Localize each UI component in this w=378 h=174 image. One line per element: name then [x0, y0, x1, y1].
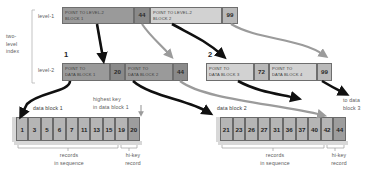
connector-overlay	[0, 0, 378, 174]
arrow-l2b1key-to-datablock2-hikey	[180, 81, 322, 115]
data-block-2-record-6[interactable]: 37	[296, 117, 309, 141]
data-block-1-records-label: records in sequence	[39, 152, 99, 167]
to-data-block-3-annotation: to data block 3	[343, 97, 361, 112]
arrow-l1e0-to-l2b1	[97, 24, 103, 58]
data-block-1-record-8[interactable]: 19	[115, 117, 127, 141]
data-block-1-record-5[interactable]: 11	[78, 117, 90, 141]
level1-entry-0-pointer[interactable]: POINT TO LEVEL-2 BLOCK 1	[62, 7, 134, 24]
data-block-2-record-7[interactable]: 40	[308, 117, 321, 141]
data-block-2-record-5[interactable]: 36	[283, 117, 296, 141]
data-block-1-record-2[interactable]: 5	[41, 117, 53, 141]
data-block-1-record-3[interactable]: 6	[53, 117, 65, 141]
data-block-2-hikey-cell[interactable]: 44	[333, 117, 346, 141]
arrow-l1e0key-to-l2b1e1	[142, 24, 170, 55]
data-block-2-caption: data block 2	[217, 105, 247, 113]
level-2-label: level-2	[38, 67, 54, 75]
data-block-2-record-8[interactable]: 42	[321, 117, 334, 141]
level2-block2-entry-0-key[interactable]: 72	[254, 63, 269, 81]
data-block-1-shadow	[14, 141, 142, 145]
arrow-l1e1-to-l2b2	[172, 24, 222, 55]
two-level-index-label: two- level index	[6, 33, 32, 56]
data-block-1-hikey-cell[interactable]: 20	[128, 117, 140, 141]
data-block-2-hikey-label: hi-key record	[324, 152, 354, 167]
level2-block-1-number: 1	[64, 50, 68, 61]
data-block-1-hikey-label: hi-key record	[118, 152, 148, 167]
level2-block1-entry-0-pointer[interactable]: POINT TO DATA BLOCK 1	[62, 63, 110, 81]
data-block-2-record-4[interactable]: 31	[270, 117, 283, 141]
bracket-db2-hikey	[327, 145, 344, 151]
level1-entry-0-key[interactable]: 44	[134, 7, 150, 24]
data-block-1-caption: data block 1	[33, 105, 63, 113]
data-block-2-record-1[interactable]: 23	[233, 117, 246, 141]
highest-key-annotation: highest key in data block 1	[93, 96, 129, 111]
diagram-canvas: two- level index level-1 level-2 POINT T…	[0, 0, 378, 174]
arrow-l2b1e1-to-datablock2	[133, 81, 208, 112]
bracket-db1-records	[18, 145, 118, 151]
arrow-l2b2e0-to-datablock3	[238, 81, 296, 98]
data-block-2-shadow	[218, 141, 348, 145]
level1-entry-1-pointer[interactable]: POINT TO LEVEL-2 BLOCK 2	[150, 7, 222, 24]
level-1-label: level-1	[38, 13, 54, 21]
level2-block1-entry-0-key[interactable]: 20	[110, 63, 125, 81]
arrow-l2b2e1-to-datablock4	[322, 81, 344, 93]
level2-block2-entry-1-key[interactable]: 99	[317, 63, 332, 81]
level2-block1-entry-1-pointer[interactable]: POINT TO DATA BLOCK 2	[125, 63, 173, 81]
level2-block2-entry-1-pointer[interactable]: POINT TO DATA BLOCK 4	[269, 63, 317, 81]
arrow-l1e1key-to-l2b2e1	[231, 24, 324, 55]
index-bracket	[32, 10, 35, 83]
level2-block2-entry-0-pointer[interactable]: POINT TO DATA BLOCK 3	[206, 63, 254, 81]
data-block-1-record-4[interactable]: 7	[66, 117, 78, 141]
data-block-2-record-3[interactable]: 27	[258, 117, 271, 141]
data-block-1-record-0[interactable]: 1	[16, 117, 28, 141]
level1-entry-1-key[interactable]: 99	[222, 7, 238, 24]
bracket-db1-hikey	[121, 145, 137, 151]
level2-block1-entry-1-key[interactable]: 44	[173, 63, 188, 81]
data-block-1-record-1[interactable]: 3	[28, 117, 40, 141]
bracket-db2-records	[222, 145, 324, 151]
data-block-1-record-6[interactable]: 13	[90, 117, 102, 141]
data-block-2-record-0[interactable]: 21	[220, 117, 233, 141]
level2-block-2-number: 2	[208, 50, 212, 61]
data-block-1-record-7[interactable]: 15	[103, 117, 115, 141]
data-block-2-record-2[interactable]: 26	[245, 117, 258, 141]
data-block-2-records-label: records in sequence	[245, 152, 305, 167]
